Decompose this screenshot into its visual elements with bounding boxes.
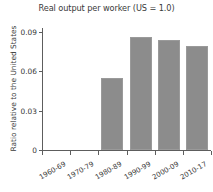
y-axis-title: Ratio relative to the United States	[9, 14, 18, 164]
y-tick-label: 0	[32, 146, 37, 155]
y-tick-label: 0.06	[21, 67, 37, 76]
y-tick-mark	[39, 32, 42, 33]
bar	[130, 37, 152, 150]
x-tick-mark	[42, 151, 43, 155]
y-tick-mark	[39, 71, 42, 72]
x-tick-label: 2010-17	[179, 160, 208, 182]
x-tick-mark	[211, 151, 212, 155]
chart-title: Real output per worker (US = 1.0)	[0, 3, 213, 13]
plot-area: 00.030.060.09	[42, 28, 211, 150]
y-tick-label: 0.03	[21, 106, 37, 115]
bar	[186, 46, 208, 150]
y-tick-mark	[39, 111, 42, 112]
x-tick-label: 1960-69	[38, 160, 67, 182]
x-tick-label: 1990-99	[122, 160, 151, 182]
y-axis-line	[42, 28, 43, 150]
bar	[101, 78, 123, 150]
x-tick-mark	[70, 151, 71, 155]
x-tick-mark	[98, 151, 99, 155]
chart-figure: Real output per worker (US = 1.0) Ratio …	[0, 0, 213, 192]
x-tick-mark	[183, 151, 184, 155]
y-tick-label: 0.09	[21, 27, 37, 36]
x-tick-label: 1980-89	[94, 160, 123, 182]
x-tick-label: 1970-79	[66, 160, 95, 182]
x-tick-label: 2000-09	[151, 160, 180, 182]
bar	[158, 40, 180, 150]
x-tick-mark	[127, 151, 128, 155]
x-tick-mark	[155, 151, 156, 155]
